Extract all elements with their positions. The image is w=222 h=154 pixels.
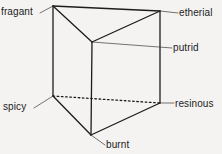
leader-line-spicy <box>34 96 53 108</box>
vertex-label-etherial: etherial <box>179 7 213 18</box>
leader-line-burnt <box>91 135 105 145</box>
prism-drawing <box>0 0 222 154</box>
edge-bottom-back-hidden <box>53 96 160 103</box>
edge-top-left-to-top-right <box>53 6 160 11</box>
edge-top-left-to-top-front <box>53 6 92 42</box>
vertex-label-burnt: burnt <box>106 139 129 150</box>
label-leader-lines <box>34 6 178 145</box>
edge-top-front-to-top-right <box>92 11 160 42</box>
leader-line-fragant <box>40 6 53 13</box>
odor-prism-diagram: fragant etherial putrid spicy resinous b… <box>0 0 222 154</box>
edge-bottom-front-to-bottom-right <box>91 103 160 135</box>
prism-hidden-edges <box>53 96 160 103</box>
vertex-label-resinous: resinous <box>175 98 214 109</box>
edge-bottom-left-to-bottom-front <box>53 96 91 135</box>
edge-vertical-front <box>91 42 92 135</box>
vertex-label-fragant: fragant <box>1 6 33 17</box>
leader-line-etherial <box>160 11 178 13</box>
prism-solid-edges <box>53 6 160 135</box>
vertex-label-putrid: putrid <box>173 42 199 53</box>
vertex-label-spicy: spicy <box>3 101 26 112</box>
